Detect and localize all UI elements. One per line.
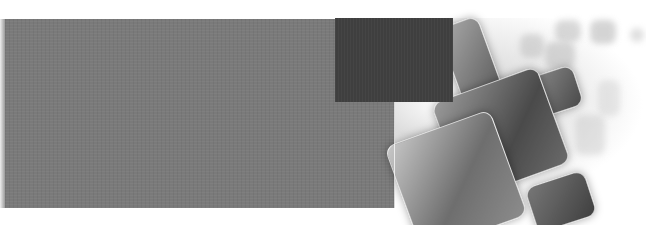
- blurred-square-graphic: [575, 115, 605, 155]
- blurred-square-graphic: [520, 34, 544, 58]
- blurred-square-graphic: [545, 42, 575, 68]
- blurred-square-graphic: [598, 80, 620, 116]
- blurred-square-graphic: [630, 28, 644, 42]
- panel-divider: [394, 100, 395, 208]
- decorative-banner: [0, 0, 646, 225]
- dark-accent-square: [335, 18, 453, 102]
- blurred-square-graphic: [555, 20, 581, 42]
- blurred-square-graphic: [590, 20, 616, 44]
